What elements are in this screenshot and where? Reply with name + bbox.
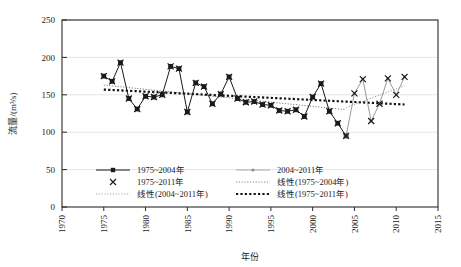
x-tick-label: 1995	[266, 215, 276, 234]
y-axis-tick-labels: 050100150200250	[42, 15, 56, 212]
y-tick-label: 150	[42, 90, 56, 100]
y-tick-label: 100	[42, 127, 56, 137]
y-tick-label: 50	[46, 165, 56, 175]
x-tick-label: 2015	[433, 215, 443, 234]
plot-background	[62, 20, 438, 207]
legend-label: 1975~2004年	[137, 165, 185, 175]
x-tick-label: 1985	[183, 215, 193, 234]
legend-label: 线性(1975~2004年)	[277, 177, 348, 187]
x-axis-tick-labels: 1970197519801985199019952000200520102015	[57, 215, 443, 234]
y-tick-label: 200	[42, 53, 56, 63]
x-tick-label: 1990	[224, 215, 234, 234]
legend-label: 线性(1975~2011年)	[277, 189, 348, 199]
y-tick-label: 0	[51, 202, 56, 212]
x-tick-label: 2010	[391, 215, 401, 234]
x-axis-ticks	[62, 207, 438, 211]
x-tick-label: 2005	[350, 215, 360, 234]
x-axis-title: 年份	[241, 251, 259, 262]
legend-marker-square	[111, 168, 115, 172]
x-tick-label: 1975	[99, 215, 109, 234]
legend-label: 2004~2011年	[277, 165, 324, 175]
chart-canvas: 050100150200250 197019751980198519901995…	[0, 0, 461, 267]
chart-figure: 050100150200250 197019751980198519901995…	[0, 0, 461, 267]
y-tick-label: 250	[42, 15, 56, 25]
x-tick-label: 2000	[308, 215, 318, 234]
x-tick-label: 1970	[57, 215, 67, 234]
x-tick-label: 1980	[141, 215, 151, 234]
legend-marker-dot	[251, 168, 254, 171]
legend-label: 线性(2004~2011年)	[137, 189, 208, 199]
y-axis-title: 流量/(m³/s)	[7, 92, 18, 134]
legend-label: 1975~2011年	[137, 177, 184, 187]
